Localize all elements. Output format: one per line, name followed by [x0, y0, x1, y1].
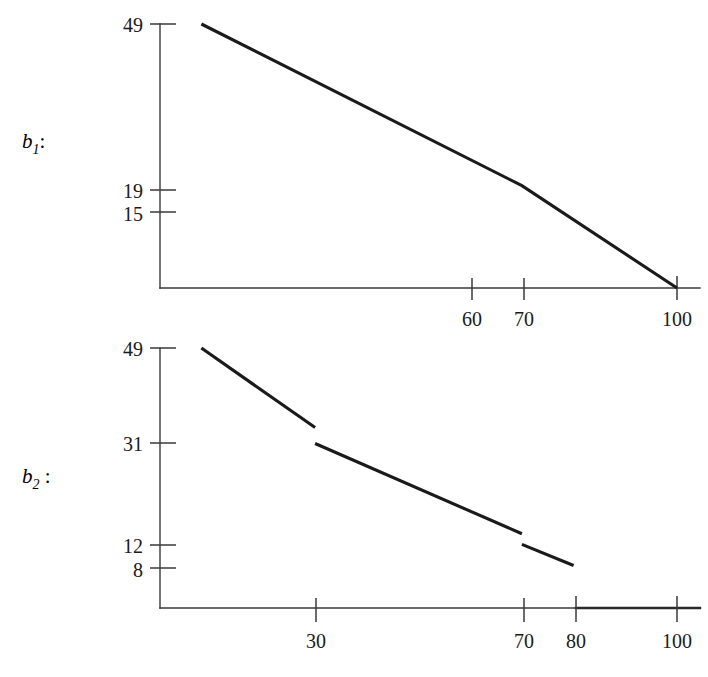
panel-b2: b2 : 49 31 12 8 30 70 80 100 [22, 338, 700, 652]
panel-b1-label-colon: : [40, 129, 46, 153]
b1-ytick-label-49: 49 [123, 14, 143, 36]
b2-ytick-label-49: 49 [123, 338, 143, 360]
b1-xtick-label-100: 100 [662, 308, 692, 330]
b2-ytick-label-12: 12 [123, 535, 143, 557]
b2-xtick-label-70: 70 [514, 630, 534, 652]
panel-b1: b1: 49 19 15 60 70 100 [22, 14, 700, 330]
b1-ytick-label-15: 15 [123, 203, 143, 225]
panel-b1-label-base: b [22, 129, 33, 153]
b1-xtick-label-70: 70 [514, 308, 534, 330]
b2-xtick-label-80: 80 [566, 630, 586, 652]
b1-ytick-label-19: 19 [123, 180, 143, 202]
panel-b1-label-subscript: 1 [33, 142, 40, 157]
figure-canvas: b1: 49 19 15 60 70 100 b2 : [0, 0, 708, 677]
b2-xtick-label-30: 30 [306, 630, 326, 652]
b2-ytick-label-8: 8 [133, 559, 143, 581]
b1-data-line [201, 24, 677, 288]
panel-b2-label-subscript: 2 [33, 477, 40, 492]
panel-b2-label-base: b [22, 464, 33, 488]
b2-data-segment-3 [522, 544, 574, 565]
b2-ytick-label-31: 31 [123, 433, 143, 455]
b2-data-segment-1 [201, 348, 315, 428]
b2-data-segment-2 [315, 444, 522, 534]
b1-xtick-label-60: 60 [462, 308, 482, 330]
panel-b1-label: b1: [22, 129, 45, 157]
b2-xtick-label-100: 100 [662, 630, 692, 652]
panel-b2-label: b2 : [22, 464, 51, 492]
panel-b2-label-colon: : [40, 464, 51, 488]
